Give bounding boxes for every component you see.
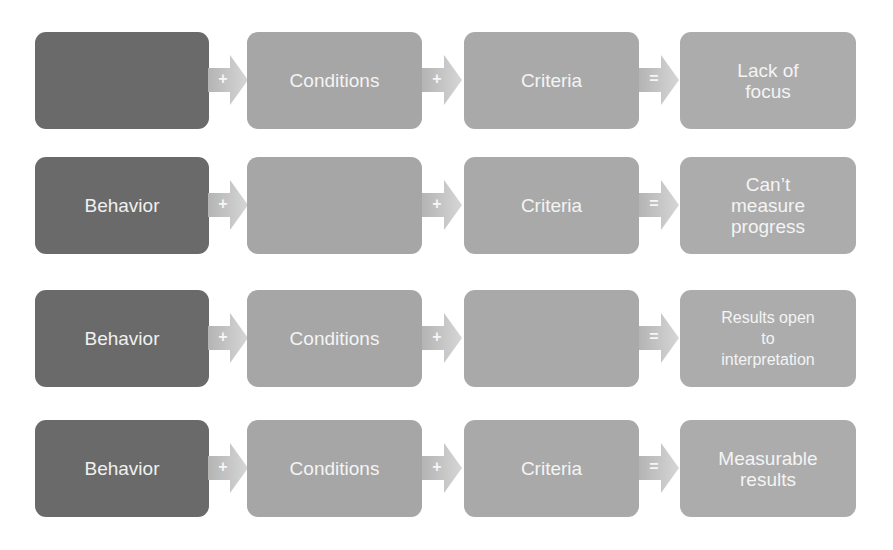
result-box: Results open to interpretation <box>680 290 856 387</box>
plus-operator: + <box>426 456 448 478</box>
plus-operator: + <box>426 193 448 215</box>
behavior-label: Behavior <box>85 458 160 480</box>
conditions-box: Conditions <box>247 290 422 387</box>
row-missing-behavior: + Conditions + Criteria = Lack of focus <box>0 32 893 129</box>
row-missing-criteria: Behavior + Conditions + = Results open t… <box>0 290 893 387</box>
result-box: Lack of focus <box>680 32 856 129</box>
behavior-label: Behavior <box>85 195 160 217</box>
behavior-box <box>35 32 209 129</box>
plus-operator: + <box>212 456 234 478</box>
plus-arrow-icon: + <box>422 180 462 230</box>
result-box: Measurable results <box>680 420 856 517</box>
plus-arrow-icon: + <box>208 55 248 105</box>
equals-operator: = <box>643 326 665 348</box>
conditions-box: Conditions <box>247 32 422 129</box>
row-missing-conditions: Behavior + + Criteria = Can’t measure pr… <box>0 157 893 254</box>
conditions-label: Conditions <box>290 328 380 350</box>
equals-arrow-icon: = <box>639 313 679 363</box>
behavior-label: Behavior <box>85 328 160 350</box>
plus-arrow-icon: + <box>422 55 462 105</box>
result-label: Measurable results <box>718 448 817 490</box>
criteria-label: Criteria <box>521 195 582 217</box>
plus-arrow-icon: + <box>208 180 248 230</box>
plus-operator: + <box>426 68 448 90</box>
plus-arrow-icon: + <box>422 313 462 363</box>
equals-arrow-icon: = <box>639 180 679 230</box>
criteria-label: Criteria <box>521 458 582 480</box>
row-complete-formula: Behavior + Conditions + Criteria = Measu… <box>0 420 893 517</box>
criteria-box: Criteria <box>464 32 639 129</box>
conditions-label: Conditions <box>290 70 380 92</box>
criteria-box: Criteria <box>464 420 639 517</box>
conditions-label: Conditions <box>290 458 380 480</box>
result-label: Results open to interpretation <box>721 307 814 370</box>
plus-operator: + <box>426 326 448 348</box>
equals-operator: = <box>643 193 665 215</box>
plus-operator: + <box>212 68 234 90</box>
formula-diagram: + Conditions + Criteria = Lack of focus … <box>0 0 893 550</box>
conditions-box <box>247 157 422 254</box>
behavior-box: Behavior <box>35 420 209 517</box>
behavior-box: Behavior <box>35 157 209 254</box>
plus-arrow-icon: + <box>208 313 248 363</box>
plus-arrow-icon: + <box>208 443 248 493</box>
equals-operator: = <box>643 68 665 90</box>
conditions-box: Conditions <box>247 420 422 517</box>
result-label: Lack of focus <box>737 60 798 102</box>
criteria-box <box>464 290 639 387</box>
criteria-label: Criteria <box>521 70 582 92</box>
equals-operator: = <box>643 456 665 478</box>
equals-arrow-icon: = <box>639 55 679 105</box>
result-box: Can’t measure progress <box>680 157 856 254</box>
result-label: Can’t measure progress <box>731 174 805 237</box>
equals-arrow-icon: = <box>639 443 679 493</box>
plus-operator: + <box>212 326 234 348</box>
plus-arrow-icon: + <box>422 443 462 493</box>
criteria-box: Criteria <box>464 157 639 254</box>
behavior-box: Behavior <box>35 290 209 387</box>
plus-operator: + <box>212 193 234 215</box>
